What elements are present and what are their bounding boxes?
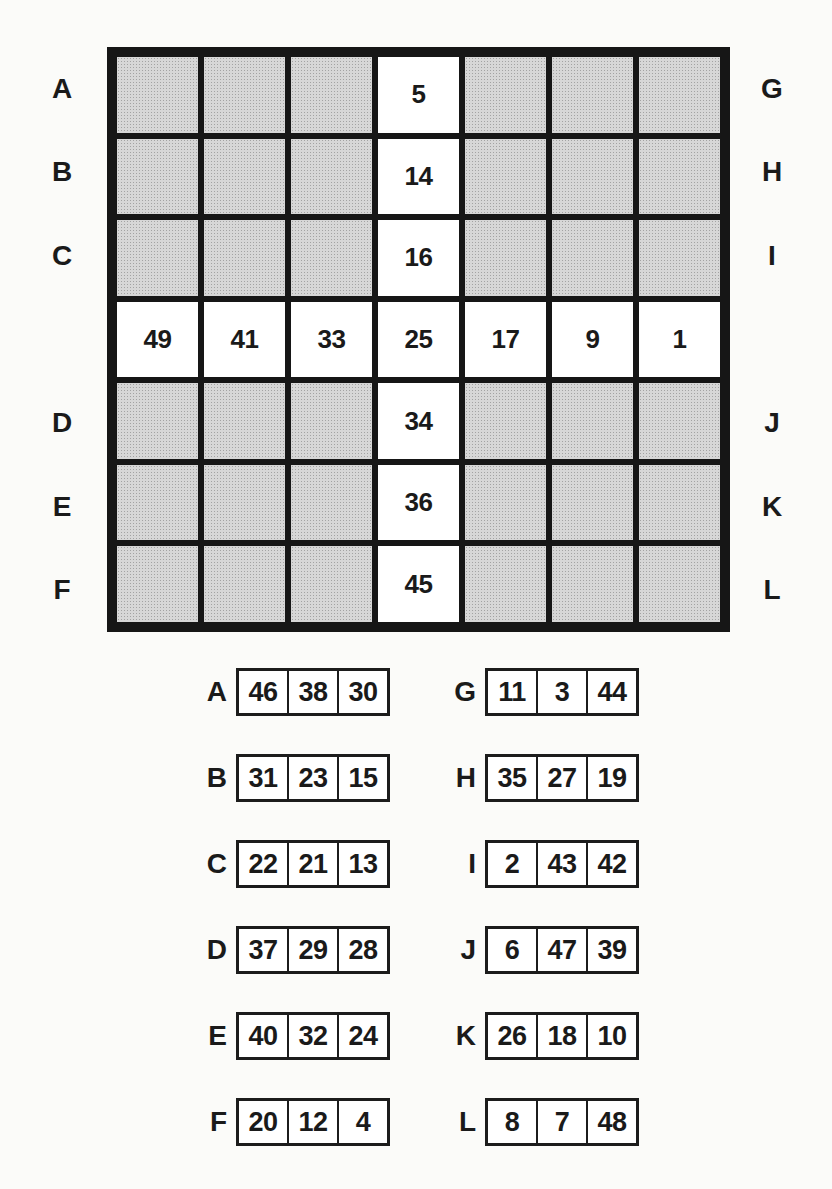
grid-cell-shaded-r1c3	[291, 57, 372, 133]
grid-cell-value-r4c6: 9	[552, 302, 633, 378]
grid-cell-value-r4c7: 1	[639, 302, 720, 378]
strip-cell-L1: 8	[488, 1101, 536, 1143]
answer-strip-H: H352719	[442, 754, 639, 802]
grid-cell-shaded-r3c5	[465, 220, 546, 296]
grid-cell-shaded-r3c6	[552, 220, 633, 296]
board-right-labels: GHIJKL	[752, 47, 792, 632]
strip-label-K: K	[442, 1020, 476, 1052]
answer-strip-G: G11344	[442, 668, 639, 716]
grid-cell-shaded-r3c2	[204, 220, 285, 296]
grid-cell-shaded-r1c7	[639, 57, 720, 133]
strip-label-G: G	[442, 676, 476, 708]
grid-cell-shaded-r7c7	[639, 546, 720, 622]
grid-cell-shaded-r7c3	[291, 546, 372, 622]
strip-box-K: 261810	[485, 1012, 639, 1060]
answer-strip-B: B312315	[193, 754, 390, 802]
grid-cell-shaded-r5c6	[552, 383, 633, 459]
strip-cell-J2: 47	[536, 929, 586, 971]
grid-cell-value-r2c4: 14	[378, 139, 459, 215]
grid-cell-shaded-r5c5	[465, 383, 546, 459]
grid-cell-value-r6c4: 36	[378, 465, 459, 541]
answer-strip-A: A463830	[193, 668, 390, 716]
strip-cell-F1: 20	[239, 1101, 287, 1143]
strip-cell-C3: 13	[337, 843, 387, 885]
strip-cell-K3: 10	[586, 1015, 636, 1057]
row-label-G: G	[752, 47, 792, 131]
strip-cell-B1: 31	[239, 757, 287, 799]
strip-box-E: 403224	[236, 1012, 390, 1060]
grid-cell-shaded-r3c1	[117, 220, 198, 296]
strip-box-C: 222113	[236, 840, 390, 888]
grid-cell-value-r5c4: 34	[378, 383, 459, 459]
strip-cell-A1: 46	[239, 671, 287, 713]
grid-cell-shaded-r5c1	[117, 383, 198, 459]
grid-cell-value-r7c4: 45	[378, 546, 459, 622]
strip-box-F: 20124	[236, 1098, 390, 1146]
grid-cell-shaded-r2c2	[204, 139, 285, 215]
row-label-B: B	[42, 131, 82, 215]
strip-cell-C1: 22	[239, 843, 287, 885]
strip-cell-L2: 7	[536, 1101, 586, 1143]
row-label-H: H	[752, 131, 792, 215]
answer-strip-D: D372928	[193, 926, 390, 974]
answer-strips: A463830G11344B312315H352719C222113I24342…	[0, 668, 832, 1184]
strip-cell-L3: 48	[586, 1101, 636, 1143]
answer-strip-F: F20124	[193, 1098, 390, 1146]
grid-cell-shaded-r5c3	[291, 383, 372, 459]
strip-label-J: J	[442, 934, 476, 966]
grid-cell-shaded-r6c3	[291, 465, 372, 541]
grid-cell-value-r4c4: 25	[378, 302, 459, 378]
strip-cell-A3: 30	[337, 671, 387, 713]
row-label-I: I	[752, 214, 792, 298]
board-left-labels: ABCDEF	[42, 47, 82, 632]
row-label-L: L	[752, 548, 792, 632]
strip-cell-D1: 37	[239, 929, 287, 971]
strip-row-1: A463830G11344	[0, 668, 832, 716]
strip-row-3: C222113I24342	[0, 840, 832, 888]
puzzle-page: ABCDEF 51416494133251791343645 GHIJKL A4…	[0, 0, 832, 1189]
strip-cell-A2: 38	[287, 671, 337, 713]
grid-cell-shaded-r2c3	[291, 139, 372, 215]
strip-box-I: 24342	[485, 840, 639, 888]
grid-cell-shaded-r7c1	[117, 546, 198, 622]
strip-box-D: 372928	[236, 926, 390, 974]
strip-cell-D2: 29	[287, 929, 337, 971]
row-label-empty	[42, 298, 82, 382]
strip-row-4: D372928J64739	[0, 926, 832, 974]
strip-box-L: 8748	[485, 1098, 639, 1146]
grid-cell-shaded-r6c7	[639, 465, 720, 541]
strip-cell-J1: 6	[488, 929, 536, 971]
strip-cell-H2: 27	[536, 757, 586, 799]
grid-cell-shaded-r7c2	[204, 546, 285, 622]
row-label-A: A	[42, 47, 82, 131]
grid-cell-shaded-r6c6	[552, 465, 633, 541]
strip-label-I: I	[442, 848, 476, 880]
strip-cell-E3: 24	[337, 1015, 387, 1057]
strip-cell-B3: 15	[337, 757, 387, 799]
grid-cell-value-r4c5: 17	[465, 302, 546, 378]
puzzle-board: 51416494133251791343645	[107, 47, 730, 632]
row-label-C: C	[42, 214, 82, 298]
grid-cell-shaded-r2c7	[639, 139, 720, 215]
strip-label-L: L	[442, 1106, 476, 1138]
strip-cell-G1: 11	[488, 671, 536, 713]
grid-cell-shaded-r2c5	[465, 139, 546, 215]
grid-cell-shaded-r6c2	[204, 465, 285, 541]
answer-strip-I: I24342	[442, 840, 639, 888]
row-label-K: K	[752, 465, 792, 549]
grid-cell-shaded-r2c1	[117, 139, 198, 215]
strip-cell-F2: 12	[287, 1101, 337, 1143]
grid-cell-shaded-r3c7	[639, 220, 720, 296]
strip-cell-E2: 32	[287, 1015, 337, 1057]
strip-label-A: A	[193, 676, 227, 708]
grid-cell-shaded-r1c6	[552, 57, 633, 133]
strip-cell-D3: 28	[337, 929, 387, 971]
strip-box-G: 11344	[485, 668, 639, 716]
answer-strip-K: K261810	[442, 1012, 639, 1060]
grid-cell-shaded-r7c5	[465, 546, 546, 622]
strip-cell-C2: 21	[287, 843, 337, 885]
strip-cell-J3: 39	[586, 929, 636, 971]
strip-cell-G3: 44	[586, 671, 636, 713]
strip-cell-H1: 35	[488, 757, 536, 799]
row-label-D: D	[42, 381, 82, 465]
